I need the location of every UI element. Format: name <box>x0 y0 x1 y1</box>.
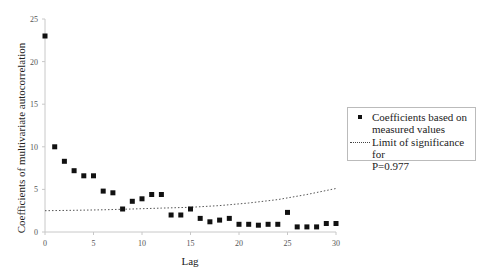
data-point-marker <box>324 221 329 226</box>
chart-legend: Coefficients based on measured values Li… <box>347 107 476 161</box>
data-point-marker <box>169 213 174 218</box>
data-point-marker <box>285 210 290 215</box>
data-point-marker <box>178 213 183 218</box>
y-tick-label: 25 <box>30 15 38 24</box>
data-point-marker <box>198 216 203 221</box>
x-tick-label: 10 <box>138 239 146 248</box>
y-tick-label: 20 <box>30 58 38 67</box>
y-axis-ticks: 0510152025 <box>30 15 45 237</box>
x-tick-label: 30 <box>332 239 340 248</box>
data-point-marker <box>256 223 261 228</box>
square-marker-icon <box>358 115 362 119</box>
dotted-line-icon <box>350 142 370 143</box>
data-point-marker <box>81 173 86 178</box>
data-markers <box>43 34 339 230</box>
y-tick-label: 0 <box>34 228 38 237</box>
legend-label: measured values <box>372 123 475 135</box>
data-point-marker <box>237 222 242 227</box>
legend-label: Coefficients based on <box>372 111 475 123</box>
data-point-marker <box>120 207 125 212</box>
data-point-marker <box>227 216 232 221</box>
data-point-marker <box>101 189 106 194</box>
legend-item-coefficients: Coefficients based on measured values <box>348 111 475 135</box>
x-tick-label: 20 <box>235 239 243 248</box>
data-point-marker <box>130 199 135 204</box>
data-point-marker <box>149 192 154 197</box>
x-tick-label: 5 <box>92 239 96 248</box>
data-point-marker <box>188 207 193 212</box>
data-point-marker <box>275 222 280 227</box>
x-axis-title: Lag <box>181 255 199 267</box>
x-tick-label: 25 <box>284 239 292 248</box>
data-point-marker <box>304 224 309 229</box>
data-point-marker <box>72 168 77 173</box>
data-point-marker <box>266 222 271 227</box>
data-point-marker <box>110 190 115 195</box>
x-tick-label: 15 <box>187 239 195 248</box>
legend-label: Limit of significance for <box>372 136 475 160</box>
data-point-marker <box>217 218 222 223</box>
data-point-marker <box>314 224 319 229</box>
data-point-marker <box>62 159 67 164</box>
x-axis-ticks: 051015202530 <box>43 232 340 248</box>
data-point-marker <box>43 34 48 39</box>
data-point-marker <box>246 222 251 227</box>
legend-label: P=0.977 <box>372 160 475 172</box>
x-tick-label: 0 <box>43 239 47 248</box>
data-point-marker <box>334 221 339 226</box>
y-tick-label: 15 <box>30 100 38 109</box>
y-axis-title: Coefficients of multivariate autocorrela… <box>15 42 27 233</box>
data-point-marker <box>52 144 57 149</box>
y-tick-label: 10 <box>30 143 38 152</box>
data-point-marker <box>159 192 164 197</box>
data-point-marker <box>207 219 212 224</box>
y-tick-label: 5 <box>34 185 38 194</box>
data-point-marker <box>91 173 96 178</box>
data-point-marker <box>295 224 300 229</box>
data-point-marker <box>140 196 145 201</box>
legend-item-significance-limit: Limit of significance for P=0.977 <box>348 136 475 172</box>
